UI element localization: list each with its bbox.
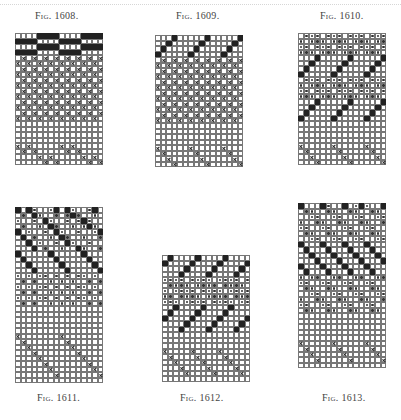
fig-1610-caption: Fig. 1610. bbox=[320, 10, 363, 21]
weave-grid bbox=[298, 33, 386, 165]
fig-1612-weave-diagram bbox=[162, 255, 250, 382]
fig-1609-caption: Fig. 1609. bbox=[176, 10, 219, 21]
weave-grid bbox=[155, 35, 243, 167]
weave-grid bbox=[162, 255, 250, 382]
fig-1608-weave-diagram bbox=[15, 33, 103, 165]
fig-1609-weave-diagram bbox=[155, 35, 243, 167]
fig-1608-caption: Fig. 1608. bbox=[35, 10, 78, 21]
fig-1611-weave-diagram bbox=[15, 207, 103, 383]
cross-cell bbox=[98, 160, 104, 166]
cross-cell bbox=[238, 162, 244, 168]
fig-1611-caption: Fig. 1611. bbox=[37, 392, 80, 403]
fig-1612-caption: Fig. 1612. bbox=[180, 392, 223, 403]
fig-1613-caption: Fig. 1613. bbox=[322, 392, 365, 403]
weave-grid bbox=[15, 207, 103, 383]
fig-1610-weave-diagram bbox=[298, 33, 386, 165]
empty-cell bbox=[381, 363, 387, 369]
fig-1613-weave-diagram bbox=[298, 203, 386, 368]
cross-cell bbox=[381, 160, 387, 166]
empty-cell bbox=[245, 376, 251, 382]
page-top-rule bbox=[0, 0, 401, 5]
weave-grid bbox=[15, 33, 103, 165]
empty-cell bbox=[98, 378, 104, 384]
weave-grid bbox=[298, 203, 386, 368]
